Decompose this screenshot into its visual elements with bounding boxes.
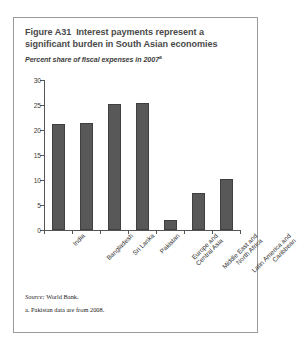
x-axis-line bbox=[44, 230, 240, 231]
y-tick-label: 15 bbox=[34, 152, 41, 159]
bar bbox=[108, 104, 121, 231]
x-label-line: Bangladesh bbox=[105, 232, 134, 261]
y-tick-label: 25 bbox=[34, 102, 41, 109]
figure-panel: Figure A31 Interest payments represent a… bbox=[13, 17, 258, 333]
bar bbox=[164, 220, 177, 230]
footnote-note: a. Pakistan data are from 2008. bbox=[25, 306, 104, 313]
y-tick-label: 10 bbox=[34, 177, 41, 184]
x-axis-label: Bangladesh bbox=[105, 232, 134, 261]
bar bbox=[192, 193, 205, 231]
x-label-line: Pakistan bbox=[158, 232, 181, 255]
y-axis-line bbox=[44, 80, 45, 230]
source-value: World Bank. bbox=[46, 293, 79, 300]
bar bbox=[52, 124, 65, 231]
x-axis-label: Europe andCentral Asia bbox=[189, 232, 224, 267]
source-label: Source: bbox=[25, 293, 45, 300]
source-note: Source: World Bank. bbox=[25, 293, 79, 300]
x-label-line: Sri Lanka bbox=[131, 232, 156, 257]
x-axis-label: Sri Lanka bbox=[131, 232, 156, 257]
bar bbox=[136, 103, 149, 230]
x-label-line: India bbox=[71, 232, 86, 247]
y-tick-label: 20 bbox=[34, 127, 41, 134]
bar bbox=[80, 123, 93, 231]
x-axis-labels: IndiaBangladeshSri LankaPakistanEurope a… bbox=[44, 232, 254, 302]
x-axis-label: Pakistan bbox=[158, 232, 181, 255]
plot-area: 051015202530 bbox=[44, 80, 240, 230]
x-axis-label: India bbox=[71, 232, 86, 247]
y-tick-label: 5 bbox=[37, 202, 41, 209]
y-tick-label: 30 bbox=[34, 77, 41, 84]
bar-chart: 051015202530 IndiaBangladeshSri LankaPak… bbox=[14, 18, 259, 334]
bar bbox=[220, 179, 233, 231]
y-tick-label: 0 bbox=[37, 227, 41, 234]
